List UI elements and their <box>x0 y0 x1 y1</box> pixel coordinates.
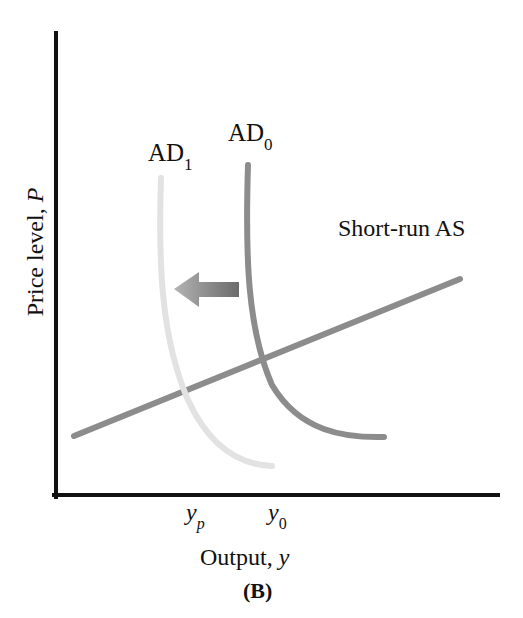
x-tick-yp-sub: p <box>197 515 205 532</box>
x-tick-y0-sub: 0 <box>279 515 287 532</box>
ad0-curve <box>247 165 384 437</box>
curve-label-ad0: AD0 <box>228 120 273 150</box>
y-axis-label: Price level, P <box>23 157 47 347</box>
curve-label-ad1-main: AD <box>148 139 184 166</box>
x-tick-y0-symbol: y <box>268 499 279 525</box>
curve-label-ad1-sub: 1 <box>184 155 193 174</box>
economics-figure-panel-b: AD1 AD0 Short-run AS Price level, P Outp… <box>0 0 523 618</box>
x-tick-yp-symbol: y <box>186 499 197 525</box>
x-axis-label-text: Output, <box>200 544 273 570</box>
x-tick-label-y-potential: yp <box>186 500 205 529</box>
short-run-as-curve <box>74 279 460 436</box>
x-axis-label-symbol: y <box>279 544 290 570</box>
ad-as-diagram <box>0 0 523 618</box>
curve-label-ad0-sub: 0 <box>264 135 273 154</box>
curve-label-short-run-as: Short-run AS <box>338 216 465 240</box>
x-tick-label-y-initial: y0 <box>268 500 287 529</box>
panel-label: (B) <box>243 580 272 602</box>
y-axis-label-text: Price level, <box>22 208 48 316</box>
curve-label-ad1: AD1 <box>148 140 193 170</box>
curve-label-ad0-main: AD <box>228 119 264 146</box>
leftward-shift-arrow <box>174 272 239 307</box>
x-axis-label: Output, y <box>200 545 289 569</box>
y-axis-label-symbol: P <box>22 188 48 203</box>
